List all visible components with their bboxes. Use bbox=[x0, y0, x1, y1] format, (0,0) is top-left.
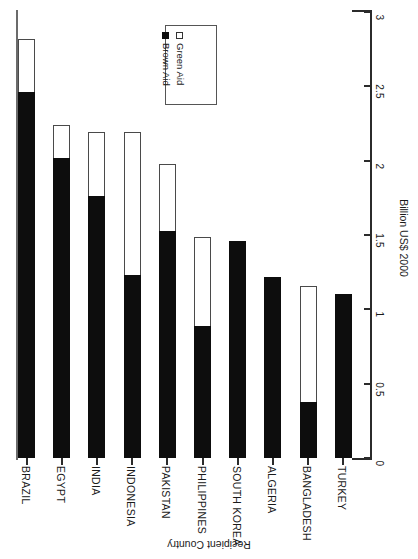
open-square-icon bbox=[177, 32, 184, 39]
bar-segment-brown-aid[interactable] bbox=[18, 92, 35, 458]
bar-egypt[interactable] bbox=[53, 125, 70, 458]
bar-segment-brown-aid[interactable] bbox=[264, 277, 281, 458]
bar-bangladesh[interactable] bbox=[300, 286, 317, 458]
bar-segment-brown-aid[interactable] bbox=[194, 326, 211, 458]
bar-segment-green-aid[interactable] bbox=[124, 132, 141, 275]
value-tick bbox=[364, 234, 371, 236]
category-label-bangladesh: BANGLADESH bbox=[301, 466, 313, 541]
bar-pakistan[interactable] bbox=[159, 164, 176, 458]
value-tick-label: 1.5 bbox=[374, 233, 385, 248]
category-label-algeria: ALGERIA bbox=[266, 466, 278, 514]
value-tick bbox=[364, 160, 371, 162]
bar-turkey[interactable] bbox=[335, 294, 352, 458]
value-tick bbox=[364, 85, 371, 87]
value-tick-label: 0 bbox=[374, 461, 385, 467]
bar-segment-brown-aid[interactable] bbox=[53, 158, 70, 458]
category-label-south-korea: SOUTH KOREA bbox=[231, 466, 243, 546]
category-label-turkey: TURKEY bbox=[336, 466, 348, 510]
category-tick bbox=[26, 458, 28, 465]
value-tick-label: 0.5 bbox=[374, 382, 385, 397]
bar-segment-brown-aid[interactable] bbox=[88, 196, 105, 458]
value-tick bbox=[364, 308, 371, 310]
chart-figure: 32.521.510.50 Billion US$ 2000 BRAZILEGY… bbox=[0, 0, 418, 559]
category-label-philippines: PHILIPPINES bbox=[196, 466, 208, 534]
category-tick bbox=[237, 458, 239, 465]
bar-algeria[interactable] bbox=[264, 277, 281, 458]
bar-india[interactable] bbox=[88, 132, 105, 458]
category-label-brazil: BRAZIL bbox=[20, 466, 32, 505]
bar-segment-brown-aid[interactable] bbox=[335, 294, 352, 458]
bar-segment-green-aid[interactable] bbox=[53, 125, 70, 158]
bar-segment-green-aid[interactable] bbox=[88, 132, 105, 196]
value-tick bbox=[364, 457, 371, 459]
bar-segment-green-aid[interactable] bbox=[300, 286, 317, 402]
bar-segment-brown-aid[interactable] bbox=[124, 275, 141, 458]
category-tick bbox=[272, 458, 274, 465]
value-tick-label: 3 bbox=[374, 15, 385, 21]
bar-south-korea[interactable] bbox=[229, 241, 246, 458]
value-tick bbox=[364, 383, 371, 385]
category-label-pakistan: PAKISTAN bbox=[160, 466, 172, 519]
category-tick bbox=[166, 458, 168, 465]
chart-legend: Brown Aid Green Aid bbox=[165, 25, 217, 105]
category-tick bbox=[61, 458, 63, 465]
bar-segment-green-aid[interactable] bbox=[18, 39, 35, 93]
category-label-india: INDIA bbox=[90, 466, 102, 496]
category-tick bbox=[307, 458, 309, 465]
value-axis-title: Billion US$ 2000 bbox=[398, 199, 410, 277]
category-label-indonesia: INDONESIA bbox=[125, 466, 137, 526]
category-tick bbox=[131, 458, 133, 465]
bar-brazil[interactable] bbox=[18, 39, 35, 458]
bar-segment-brown-aid[interactable] bbox=[300, 402, 317, 458]
category-tick bbox=[202, 458, 204, 465]
category-axis-title: Recipient Country bbox=[167, 539, 250, 551]
bar-segment-brown-aid[interactable] bbox=[159, 231, 176, 458]
value-tick-label: 1 bbox=[374, 312, 385, 318]
category-tick bbox=[96, 458, 98, 465]
category-label-egypt: EGYPT bbox=[55, 466, 67, 503]
category-tick bbox=[342, 458, 344, 465]
bar-segment-brown-aid[interactable] bbox=[229, 241, 246, 458]
bar-segment-green-aid[interactable] bbox=[194, 237, 211, 326]
bar-indonesia[interactable] bbox=[124, 132, 141, 458]
bar-philippines[interactable] bbox=[194, 237, 211, 459]
legend-label-green-aid: Green Aid bbox=[175, 43, 185, 85]
value-tick bbox=[364, 11, 371, 13]
value-tick-label: 2 bbox=[374, 163, 385, 169]
legend-item-green-aid: Green Aid bbox=[146, 32, 214, 85]
bar-segment-green-aid[interactable] bbox=[159, 164, 176, 231]
value-tick-label: 2.5 bbox=[374, 85, 385, 100]
